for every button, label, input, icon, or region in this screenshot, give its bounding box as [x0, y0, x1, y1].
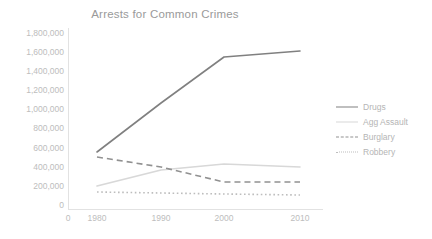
legend-swatch-dotted-icon	[336, 147, 358, 157]
x-axis-tick-label: 1980	[88, 213, 107, 223]
x-axis-tick-label-origin: 0	[66, 213, 71, 223]
legend-swatch-solid-icon	[336, 117, 358, 127]
x-axis-tick-label: 1990	[152, 213, 171, 223]
series-line-robbery	[97, 192, 300, 195]
legend-swatch-solid-icon	[336, 102, 358, 112]
legend-item-burglary: Burglary	[336, 129, 432, 144]
legend-label: Drugs	[363, 102, 386, 112]
legend-item-robbery: Robbery	[336, 144, 432, 159]
chart-container: Arrests for Common Crimes 1,800,000 1,60…	[0, 0, 432, 239]
series-line-drugs	[97, 51, 300, 152]
legend-label: Robbery	[363, 147, 395, 157]
legend-item-drugs: Drugs	[336, 99, 432, 114]
chart-legend: Drugs Agg Assault Burglary Robbery	[336, 99, 432, 159]
legend-label: Agg Assault	[363, 117, 408, 127]
legend-item-agg-assault: Agg Assault	[336, 114, 432, 129]
legend-label: Burglary	[363, 132, 395, 142]
x-axis-tick-label: 2000	[215, 213, 234, 223]
x-axis-tick-label: 2010	[291, 213, 310, 223]
legend-swatch-dashed-icon	[336, 132, 358, 142]
